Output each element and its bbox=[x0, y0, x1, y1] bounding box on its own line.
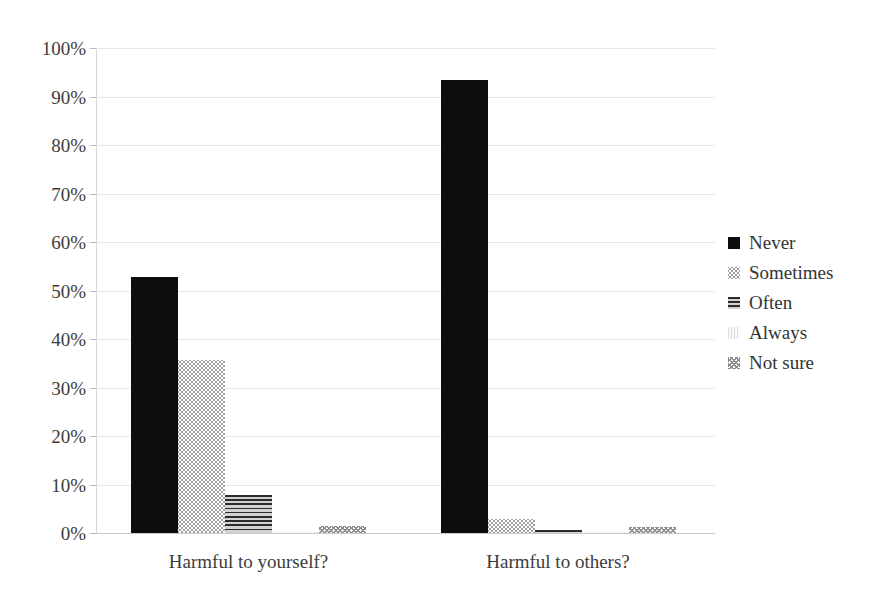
chart-legend: NeverSometimesOftenAlwaysNot sure bbox=[728, 228, 888, 378]
y-axis-tick bbox=[90, 194, 96, 195]
y-axis-tick bbox=[90, 436, 96, 437]
bar bbox=[272, 532, 319, 534]
bar bbox=[178, 360, 225, 533]
y-axis-tick-label: 90% bbox=[2, 87, 86, 106]
y-axis-tick bbox=[90, 485, 96, 486]
bar bbox=[488, 519, 535, 533]
y-axis-tick-label: 70% bbox=[2, 184, 86, 203]
legend-swatch-icon bbox=[728, 267, 740, 279]
y-axis-tick-label: 40% bbox=[2, 330, 86, 349]
y-axis-tick bbox=[90, 533, 96, 534]
y-axis-tick bbox=[90, 388, 96, 389]
bar bbox=[319, 526, 366, 533]
legend-item[interactable]: Sometimes bbox=[728, 258, 888, 288]
legend-swatch-icon bbox=[728, 237, 740, 249]
legend-item[interactable]: Never bbox=[728, 228, 888, 258]
y-axis-tick-label: 100% bbox=[2, 39, 86, 58]
legend-label: Always bbox=[749, 323, 807, 343]
legend-item[interactable]: Not sure bbox=[728, 348, 888, 378]
bar bbox=[225, 495, 272, 533]
legend-swatch-icon bbox=[728, 297, 740, 309]
bar-chart: 0%10%20%30%40%50%60%70%80%90%100% Harmfu… bbox=[0, 0, 891, 597]
x-axis-category-label: Harmful to yourself? bbox=[169, 551, 328, 572]
legend-label: Sometimes bbox=[749, 263, 833, 283]
y-axis-tick bbox=[90, 48, 96, 49]
y-axis-tick-label: 50% bbox=[2, 281, 86, 300]
y-axis-tick-label: 20% bbox=[2, 427, 86, 446]
bar bbox=[582, 532, 629, 534]
bars-layer bbox=[96, 48, 715, 533]
y-axis-tick bbox=[90, 145, 96, 146]
bar bbox=[535, 530, 582, 533]
legend-item[interactable]: Often bbox=[728, 288, 888, 318]
bar bbox=[131, 277, 178, 533]
y-axis-tick bbox=[90, 242, 96, 243]
legend-swatch-icon bbox=[728, 357, 740, 369]
y-axis-tick bbox=[90, 339, 96, 340]
y-axis-tick-label: 80% bbox=[2, 136, 86, 155]
legend-label: Often bbox=[749, 293, 792, 313]
legend-label: Never bbox=[749, 233, 795, 253]
y-axis-tick-label: 30% bbox=[2, 378, 86, 397]
legend-label: Not sure bbox=[749, 353, 814, 373]
x-axis-category-label: Harmful to others? bbox=[486, 551, 630, 572]
plot-area bbox=[96, 48, 715, 533]
legend-item[interactable]: Always bbox=[728, 318, 888, 348]
y-axis: 0%10%20%30%40%50%60%70%80%90%100% bbox=[0, 0, 86, 597]
y-axis-tick bbox=[90, 291, 96, 292]
y-axis-tick-label: 60% bbox=[2, 233, 86, 252]
legend-swatch-icon bbox=[728, 327, 740, 339]
gridline bbox=[96, 533, 715, 534]
y-axis-tick-label: 10% bbox=[2, 475, 86, 494]
y-axis-tick-label: 0% bbox=[2, 524, 86, 543]
y-axis-tick bbox=[90, 97, 96, 98]
bar bbox=[441, 80, 488, 533]
bar bbox=[629, 527, 676, 533]
